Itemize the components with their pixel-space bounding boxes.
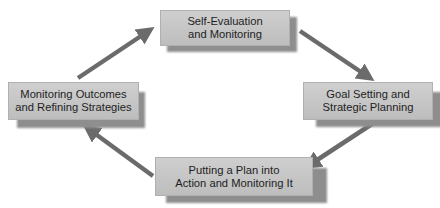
- node-label-line2: and Refining Strategies: [15, 101, 131, 114]
- node-label-line2: Action and Monitoring It: [175, 177, 293, 190]
- node-label-line2: and Monitoring: [187, 28, 262, 41]
- arrow-bottom-to-left: [90, 130, 153, 176]
- node-label-line1: Putting a Plan into: [175, 164, 293, 177]
- node-label-line2: Strategic Planning: [323, 101, 414, 114]
- node-label-line1: Monitoring Outcomes: [15, 88, 131, 101]
- arrow-left-to-top: [78, 32, 147, 78]
- node-label-line1: Goal Setting and: [323, 88, 414, 101]
- arrow-right-to-bottom: [311, 124, 372, 164]
- arrow-top-to-right: [300, 31, 367, 76]
- node-label-line1: Self-Evaluation: [187, 15, 262, 28]
